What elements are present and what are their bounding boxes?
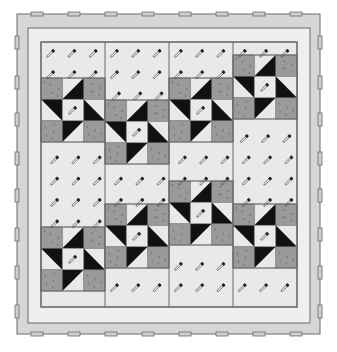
- binding-clip-icon: [318, 228, 322, 241]
- medium-square: [212, 121, 233, 142]
- friendship-star-block: [233, 55, 297, 119]
- medium-square: [148, 100, 169, 121]
- binding-clip-icon: [142, 12, 154, 16]
- binding-clip-icon: [216, 12, 228, 16]
- binding-clip-icon: [15, 76, 19, 89]
- medium-square: [233, 98, 254, 119]
- binding-clip-icon: [105, 332, 117, 336]
- medium-square: [41, 270, 62, 291]
- binding-clip-icon: [15, 36, 19, 49]
- medium-square: [84, 270, 105, 291]
- friendship-star-block: [41, 227, 105, 291]
- medium-square: [84, 121, 105, 142]
- binding-clip-icon: [318, 266, 322, 279]
- binding-clip-icon: [31, 332, 43, 336]
- medium-square: [105, 247, 126, 268]
- binding-clip-icon: [318, 189, 322, 202]
- binding-clip-icon: [105, 12, 117, 16]
- medium-square: [233, 247, 254, 268]
- binding-clip-icon: [318, 113, 322, 126]
- binding-clip-icon: [253, 332, 265, 336]
- binding-clip-icon: [15, 305, 19, 318]
- binding-clip-icon: [216, 332, 228, 336]
- medium-square: [212, 181, 233, 202]
- medium-square: [276, 55, 297, 76]
- medium-square: [276, 204, 297, 225]
- binding-clip-icon: [179, 332, 191, 336]
- binding-clip-icon: [318, 36, 322, 49]
- friendship-star-block: [169, 181, 233, 245]
- medium-square: [169, 224, 190, 245]
- medium-square: [169, 121, 190, 142]
- binding-clip-icon: [68, 12, 80, 16]
- quilt-illustration: [0, 0, 337, 352]
- medium-square: [84, 227, 105, 248]
- medium-square: [276, 247, 297, 268]
- medium-square: [148, 204, 169, 225]
- binding-clip-icon: [318, 152, 322, 165]
- binding-clip-icon: [68, 332, 80, 336]
- friendship-star-block: [41, 78, 105, 142]
- binding-clip-icon: [290, 12, 302, 16]
- binding-clip-icon: [15, 266, 19, 279]
- binding-clip-icon: [15, 152, 19, 165]
- friendship-star-block: [105, 100, 169, 164]
- friendship-star-block: [169, 78, 233, 142]
- friendship-star-block: [233, 204, 297, 268]
- medium-square: [148, 247, 169, 268]
- binding-clip-icon: [31, 12, 43, 16]
- medium-square: [105, 143, 126, 164]
- medium-square: [276, 98, 297, 119]
- medium-square: [212, 224, 233, 245]
- medium-square: [41, 121, 62, 142]
- binding-clip-icon: [142, 332, 154, 336]
- binding-clip-icon: [179, 12, 191, 16]
- medium-square: [84, 78, 105, 99]
- binding-clip-icon: [253, 12, 265, 16]
- binding-clip-icon: [15, 113, 19, 126]
- medium-square: [148, 143, 169, 164]
- binding-clip-icon: [318, 76, 322, 89]
- binding-clip-icon: [318, 305, 322, 318]
- friendship-star-block: [105, 204, 169, 268]
- binding-clip-icon: [15, 228, 19, 241]
- medium-square: [212, 78, 233, 99]
- binding-clip-icon: [15, 189, 19, 202]
- binding-clip-icon: [290, 332, 302, 336]
